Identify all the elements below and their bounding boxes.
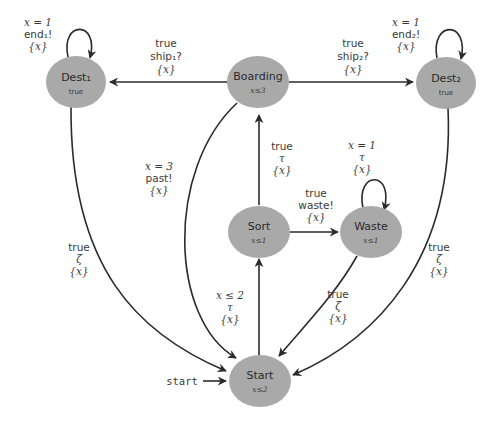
state-name: Dest₂ (431, 72, 461, 85)
initial-label: start (166, 375, 198, 387)
svg-text:{x}: {x} (306, 211, 325, 224)
svg-text:x ≤ 2: x ≤ 2 (216, 289, 244, 301)
svg-text:τ: τ (279, 152, 285, 164)
state-name: Start (247, 369, 275, 382)
state-invariant: x≤1 (251, 236, 266, 245)
label-waste-loop: x = 1 τ {x} (348, 139, 376, 176)
label-boarding-dest2: true ship₂? {x} (337, 37, 369, 76)
svg-text:{x}: {x} (352, 163, 371, 176)
svg-text:{x}: {x} (220, 313, 239, 326)
svg-text:τ: τ (359, 151, 365, 163)
svg-text:true: true (342, 37, 364, 49)
state-name: Dest₁ (61, 71, 91, 84)
label-dest2-loop: x = 1 end₂! {x} (392, 16, 420, 53)
svg-text:τ: τ (227, 301, 233, 313)
state-invariant: true (439, 89, 453, 97)
state-invariant: x≤3 (250, 86, 266, 95)
edge-waste-start (279, 256, 357, 356)
svg-text:{x}: {x} (328, 312, 347, 325)
state-invariant: x≤2 (252, 385, 268, 394)
svg-text:x = 1: x = 1 (24, 16, 52, 28)
svg-text:true: true (327, 288, 349, 300)
svg-text:past!: past! (146, 172, 173, 184)
svg-text:{x}: {x} (343, 63, 362, 76)
svg-text:true: true (271, 140, 293, 152)
svg-text:{x}: {x} (69, 265, 88, 278)
svg-text:{x}: {x} (272, 164, 291, 177)
state-invariant: x≤1 (363, 236, 378, 245)
svg-text:{x}: {x} (149, 184, 168, 197)
svg-text:ζ: ζ (76, 253, 83, 265)
svg-text:{x}: {x} (28, 40, 47, 53)
svg-text:ship₂?: ship₂? (337, 50, 369, 62)
edge-dest1-start (71, 107, 226, 371)
svg-text:{x}: {x} (156, 63, 175, 76)
label-sort-boarding: true τ {x} (271, 140, 293, 177)
svg-text:{x}: {x} (429, 265, 448, 278)
state-start[interactable]: Start x≤2 (229, 355, 291, 407)
label-boarding-start: x = 3 past! {x} (145, 160, 173, 197)
edge-dest2-loop (436, 30, 462, 59)
label-sort-waste: true waste! {x} (298, 187, 333, 224)
svg-text:waste!: waste! (298, 199, 333, 211)
svg-text:end₂!: end₂! (392, 28, 420, 40)
state-boarding[interactable]: Boarding x≤3 (227, 56, 289, 108)
label-boarding-dest1: true ship₁? {x} (150, 37, 182, 76)
edge-dest1-loop (67, 29, 92, 58)
svg-text:true: true (155, 37, 177, 49)
label-waste-start: true ζ {x} (327, 288, 349, 325)
svg-text:true: true (68, 241, 90, 253)
svg-text:true: true (305, 187, 327, 199)
svg-text:end₁!: end₁! (24, 28, 52, 40)
state-dest2[interactable]: Dest₂ true (416, 57, 476, 109)
svg-text:ζ: ζ (436, 253, 443, 265)
svg-text:x = 3: x = 3 (145, 160, 173, 172)
svg-text:x = 1: x = 1 (392, 16, 420, 28)
state-name: Boarding (233, 70, 282, 83)
svg-text:{x}: {x} (396, 40, 415, 53)
svg-text:ship₁?: ship₁? (150, 50, 182, 62)
state-waste[interactable]: Waste x≤1 (340, 206, 402, 258)
label-start-sort: x ≤ 2 τ {x} (216, 289, 244, 326)
state-invariant: true (69, 88, 83, 96)
timed-automaton-diagram: Dest₁ true Boarding x≤3 Dest₂ true Sort … (0, 0, 500, 440)
svg-text:x = 1: x = 1 (348, 139, 376, 151)
svg-text:true: true (428, 241, 450, 253)
label-dest1-loop: x = 1 end₁! {x} (24, 16, 52, 53)
state-sort[interactable]: Sort x≤1 (228, 206, 290, 258)
label-dest2-start: true ζ {x} (428, 241, 450, 278)
label-dest1-start: true ζ {x} (68, 241, 90, 278)
state-dest1[interactable]: Dest₁ true (46, 56, 106, 108)
state-name: Waste (354, 220, 388, 233)
state-name: Sort (248, 220, 271, 233)
edge-waste-loop (362, 180, 386, 210)
svg-text:ζ: ζ (335, 300, 342, 312)
